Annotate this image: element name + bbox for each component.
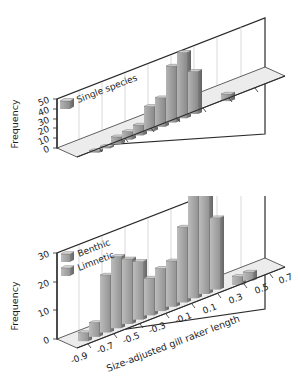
bottom-y-axis-title: Frequency bbox=[9, 281, 20, 330]
xtick-0.3: 0.3 bbox=[227, 291, 244, 305]
xtick--0.9: -0.9 bbox=[69, 350, 89, 366]
panel-benthic-limnetic: 0 10 20 30 Frequency bbox=[0, 196, 301, 391]
gill-raker-figure: 0 10 20 30 40 50 Frequency bbox=[0, 0, 301, 391]
bottom-ytick-10: 10 bbox=[36, 305, 51, 319]
xtick--0.1: -0.1 bbox=[173, 310, 193, 326]
legend-swatch-single-species bbox=[60, 99, 74, 110]
bottom-y-axis: 0 10 20 30 Frequency bbox=[9, 248, 57, 346]
panel-single-species: 0 10 20 30 40 50 Frequency bbox=[0, 0, 301, 196]
top-chart-svg: 0 10 20 30 40 50 Frequency bbox=[0, 0, 301, 196]
legend-swatch-benthic bbox=[61, 252, 74, 262]
top-y-axis-title: Frequency bbox=[9, 99, 20, 148]
legend-swatch-limnetic bbox=[61, 266, 74, 276]
xtick-0.5: 0.5 bbox=[253, 281, 270, 295]
top-y-axis: 0 10 20 30 40 50 Frequency bbox=[9, 94, 57, 155]
bottom-ytick-0: 0 bbox=[42, 334, 51, 346]
bottom-ytick-20: 20 bbox=[36, 277, 51, 291]
xtick-0.1: 0.1 bbox=[201, 301, 218, 315]
xtick--0.5: -0.5 bbox=[121, 330, 141, 346]
bottom-chart-svg: 0 10 20 30 Frequency bbox=[0, 196, 301, 391]
xtick--0.3: -0.3 bbox=[147, 320, 167, 336]
bottom-legend: Benthic Limnetic bbox=[61, 237, 116, 276]
top-ytick-50: 50 bbox=[36, 94, 51, 108]
bottom-ytick-30: 30 bbox=[36, 248, 51, 262]
xtick-0.7: 0.7 bbox=[277, 271, 294, 285]
bar-top-9 bbox=[188, 70, 202, 115]
top-legend: Single species bbox=[60, 72, 139, 109]
xtick--0.7: -0.7 bbox=[95, 340, 115, 356]
bar-bottom-12 bbox=[210, 216, 224, 290]
